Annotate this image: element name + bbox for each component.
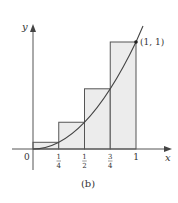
tick-quarter-den: 4 [57,162,62,170]
x-axis-label: x [165,152,171,163]
rectangle-4 [110,42,136,149]
y-axis-label: y [21,21,28,32]
tick-half-num: 1 [82,153,86,161]
origin-label: 0 [24,152,30,162]
tick-half-den: 2 [82,162,86,170]
tick-three-quarter-num: 3 [108,153,112,161]
point-label: (1, 1) [140,37,164,47]
tick-three-quarter-den: 4 [108,162,113,170]
tick-quarter-num: 1 [57,153,61,161]
point-marker-icon [134,40,138,44]
rectangle-3 [85,89,111,149]
tick-one: 1 [133,152,139,162]
x-tick-labels: 1 4 1 2 3 4 1 [57,152,139,170]
figure-caption: (b) [81,178,95,189]
y-axis-arrow-icon [30,24,36,32]
riemann-sum-diagram: (1, 1) y x 0 1 4 1 2 3 4 1 (b) [0,0,178,203]
riemann-rectangles [33,42,136,149]
rectangle-1 [33,142,59,149]
